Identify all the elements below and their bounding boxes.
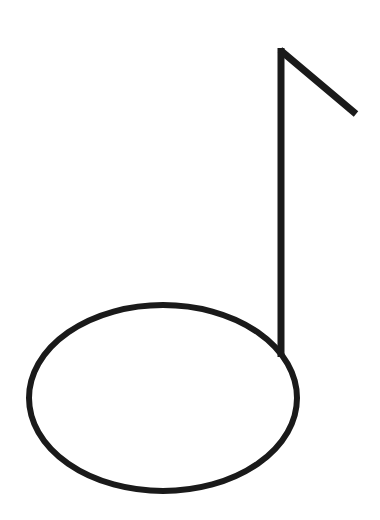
- note-flag: [280, 50, 356, 114]
- note-head: [29, 305, 297, 491]
- drawing-canvas: eighth music note: [0, 0, 380, 520]
- music-note-icon: [0, 0, 380, 520]
